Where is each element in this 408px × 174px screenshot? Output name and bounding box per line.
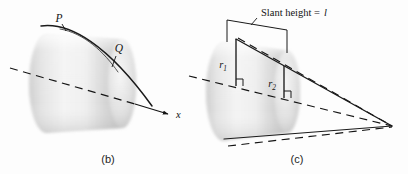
label-slant-height-symbol: l [324, 7, 327, 18]
caption-panel-c: (c) [291, 153, 304, 165]
slant-label-leader [251, 18, 257, 25]
label-radius-r2-subscript: 2 [272, 83, 276, 92]
label-point-p: P [54, 12, 62, 24]
label-point-q: Q [115, 42, 124, 54]
panel-b: P Q x (b) [10, 12, 181, 165]
caption-panel-b: (b) [101, 153, 114, 165]
panel-c: Slant height =l r1 r2 (c) [189, 7, 392, 165]
slant-bracket-span [227, 20, 287, 30]
label-axis-x: x [175, 109, 181, 120]
frustum-c-shading-overlay [206, 43, 300, 141]
label-radius-r1-subscript: 1 [223, 64, 227, 73]
figure-container: P Q x (b) [0, 0, 408, 174]
label-slant-height: Slant height =l [261, 7, 327, 18]
label-slant-height-text: Slant height = [261, 7, 320, 18]
figure-svg: P Q x (b) [0, 0, 408, 174]
